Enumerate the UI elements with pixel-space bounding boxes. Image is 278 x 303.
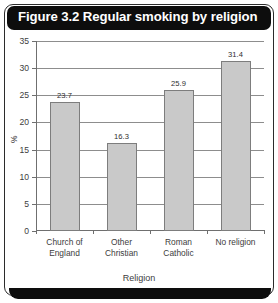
- figure-title-bar: Figure 3.2 Regular smoking by religion: [7, 6, 271, 30]
- y-tick-mark: [32, 204, 36, 205]
- x-tick-mark: [36, 230, 37, 234]
- x-axis-category-label: OtherChristian: [105, 237, 138, 258]
- y-axis-line: [36, 41, 37, 231]
- y-axis-title: %: [9, 136, 19, 143]
- x-tick-mark: [93, 230, 94, 234]
- y-tick-mark: [32, 150, 36, 151]
- x-axis-category-label: Church ofEngland: [46, 237, 82, 258]
- bar: [107, 143, 137, 231]
- category-label-line: Christian: [105, 248, 138, 259]
- x-tick-mark: [264, 230, 265, 234]
- x-axis-category-label: RomanCatholic: [163, 237, 193, 258]
- x-axis-title: Religion: [0, 273, 278, 283]
- bar: [50, 102, 80, 231]
- y-tick-label: 15: [19, 145, 29, 155]
- bar-value-label: 31.4: [228, 50, 243, 59]
- x-axis-category-label: No religion: [215, 237, 255, 248]
- x-tick-mark: [150, 230, 151, 234]
- x-tick-mark: [207, 230, 208, 234]
- bar-value-label: 25.9: [171, 79, 186, 88]
- y-tick-label: 25: [19, 90, 29, 100]
- category-label-line: No religion: [215, 237, 255, 248]
- bar-value-label: 23.7: [57, 91, 72, 100]
- bar: [221, 61, 251, 231]
- figure-footer-bar: [9, 288, 271, 299]
- y-tick-mark: [32, 122, 36, 123]
- bar: [164, 90, 194, 231]
- y-tick-label: 30: [19, 63, 29, 73]
- y-tick-label: 20: [19, 117, 29, 127]
- gridline: [36, 41, 264, 42]
- y-tick-label: 5: [24, 199, 29, 209]
- bar-value-label: 16.3: [114, 132, 129, 141]
- category-label-line: Church of: [46, 237, 82, 248]
- page-title: Figure 3.2 Regular smoking by religion: [18, 9, 258, 24]
- chart-plot-area: 05101520253035 23.716.325.931.4: [36, 41, 264, 231]
- y-tick-mark: [32, 41, 36, 42]
- category-label-line: Roman: [163, 237, 193, 248]
- y-tick-mark: [32, 95, 36, 96]
- y-tick-mark: [32, 177, 36, 178]
- y-tick-mark: [32, 68, 36, 69]
- figure-card: Figure 3.2 Regular smoking by religion 0…: [0, 0, 278, 303]
- category-label-line: Catholic: [163, 248, 193, 259]
- y-tick-label: 10: [19, 172, 29, 182]
- category-label-line: England: [46, 248, 82, 259]
- category-label-line: Other: [105, 237, 138, 248]
- y-tick-label: 35: [19, 36, 29, 46]
- y-tick-label: 0: [24, 226, 29, 236]
